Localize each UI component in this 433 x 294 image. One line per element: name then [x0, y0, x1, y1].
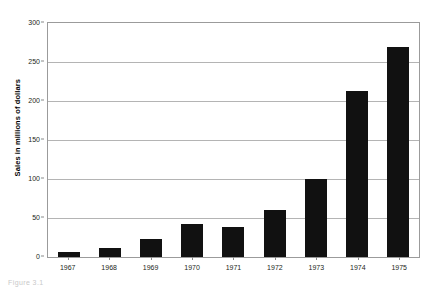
x-axis-tick-mark	[233, 257, 234, 260]
y-axis-title-text: Sales in millions of dollars	[13, 79, 22, 176]
bar-1974	[346, 91, 368, 257]
plot-area	[47, 22, 420, 258]
bar-1973	[305, 179, 327, 257]
caption-remnant: Figure 3.1	[8, 279, 44, 286]
x-axis-tick-label: 1967	[47, 257, 88, 275]
bar-slot	[48, 23, 89, 257]
x-axis-tick-mark	[151, 257, 152, 260]
bar-1968	[99, 248, 121, 257]
x-axis-tick-mark	[399, 257, 400, 260]
y-axis-tick-label: 200	[28, 97, 40, 104]
y-axis-tick-mark	[41, 61, 44, 62]
x-axis-tick-mark	[275, 257, 276, 260]
x-axis-tick-mark	[192, 257, 193, 260]
y-axis-tick-mark	[41, 256, 44, 257]
y-axis-tick-mark	[41, 100, 44, 101]
bar-slot	[213, 23, 254, 257]
bar-chart-figure: Sales in millions of dollars 05010015020…	[0, 0, 433, 294]
y-axis-tick-mark	[41, 22, 44, 23]
y-axis-tick-label: 100	[28, 175, 40, 182]
y-axis-tick-label: 250	[28, 58, 40, 65]
x-axis-tick-mark	[358, 257, 359, 260]
x-axis-tick-label: 1971	[213, 257, 254, 275]
x-axis-tick-text: 1970	[184, 264, 200, 271]
x-axis-tick-mark	[68, 257, 69, 260]
x-axis-tick-label: 1969	[130, 257, 171, 275]
x-axis-tick-text: 1969	[143, 264, 159, 271]
y-axis-tick-mark	[41, 217, 44, 218]
bar-slot	[254, 23, 295, 257]
bar-slot	[130, 23, 171, 257]
bar-1972	[264, 210, 286, 257]
x-axis-tick-text: 1971	[226, 264, 242, 271]
bar-1970	[181, 224, 203, 257]
x-axis-tick-text: 1973	[309, 264, 325, 271]
bar-slot	[172, 23, 213, 257]
x-axis-tick-label: 1974	[337, 257, 378, 275]
x-axis-tick-text: 1967	[60, 264, 76, 271]
y-axis-tick-label: 150	[28, 136, 40, 143]
x-axis-tick-text: 1975	[391, 264, 407, 271]
bar-slot	[295, 23, 336, 257]
x-axis-tick-mark	[109, 257, 110, 260]
bar-1975	[387, 47, 409, 257]
x-axis-tick-text: 1968	[101, 264, 117, 271]
bar-slot	[378, 23, 419, 257]
bar-series	[48, 23, 419, 257]
x-axis-tick-text: 1972	[267, 264, 283, 271]
x-axis-tick-text: 1974	[350, 264, 366, 271]
y-axis-tick-label: 300	[28, 19, 40, 26]
y-axis-tick-label: 0	[36, 253, 40, 260]
x-axis-tick-mark	[316, 257, 317, 260]
bar-slot	[337, 23, 378, 257]
x-axis-tick-label: 1975	[379, 257, 420, 275]
bar-1969	[140, 239, 162, 257]
x-axis-tick-labels: 196719681969197019711972197319741975	[47, 257, 420, 275]
x-axis-tick-label: 1968	[88, 257, 129, 275]
y-axis-tick-mark	[41, 139, 44, 140]
bar-1971	[222, 227, 244, 257]
x-axis-tick-label: 1972	[254, 257, 295, 275]
x-axis-tick-label: 1970	[171, 257, 212, 275]
y-axis-tick-labels: 050100150200250300	[22, 0, 44, 294]
y-axis-tick-mark	[41, 178, 44, 179]
y-axis-tick-label: 50	[32, 214, 40, 221]
bar-slot	[89, 23, 130, 257]
x-axis-tick-label: 1973	[296, 257, 337, 275]
